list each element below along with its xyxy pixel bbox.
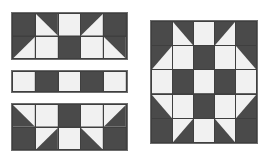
patch-light — [81, 37, 103, 59]
patch-dark — [152, 22, 172, 45]
patch-light — [215, 46, 235, 69]
patch-light — [59, 72, 81, 91]
patch-light — [194, 70, 214, 93]
patch-light — [36, 37, 58, 59]
patch-light — [36, 105, 58, 127]
patch-light — [59, 14, 81, 36]
quilt-strip-top — [11, 12, 128, 60]
patch-dark — [36, 72, 58, 91]
patch-dark — [104, 14, 126, 36]
quilt-diagram-canvas — [0, 0, 263, 164]
patch-triangle-top-right — [236, 46, 256, 69]
patch-dark — [59, 105, 81, 127]
patch-triangle-top-left — [13, 37, 35, 59]
patch-light — [236, 70, 256, 93]
patch-light — [173, 46, 193, 69]
patch-triangle-bottom-right — [173, 119, 193, 142]
patch-triangle-bottom-left — [13, 105, 35, 127]
patch-dark — [13, 14, 35, 36]
patch-dark — [215, 70, 235, 93]
quilt-assembled-block — [150, 20, 258, 144]
patch-triangle-top-right — [36, 14, 58, 36]
patch-dark — [81, 72, 103, 91]
patch-triangle-top-left — [81, 14, 103, 36]
patch-dark — [152, 119, 172, 142]
patch-triangle-top-left — [215, 22, 235, 45]
patch-dark — [59, 37, 81, 59]
patch-triangle-top-right — [104, 37, 126, 59]
patch-triangle-bottom-right — [104, 105, 126, 127]
patch-light — [13, 72, 35, 91]
quilt-strip-middle — [11, 70, 128, 93]
patch-triangle-bottom-left — [152, 95, 172, 118]
patch-dark — [194, 46, 214, 69]
patch-dark — [104, 128, 126, 150]
patch-triangle-bottom-left — [215, 119, 235, 142]
patch-light — [104, 72, 126, 91]
patch-triangle-top-left — [152, 46, 172, 69]
patch-dark — [13, 128, 35, 150]
patch-light — [173, 95, 193, 118]
patch-light — [81, 105, 103, 127]
patch-triangle-bottom-right — [236, 95, 256, 118]
patch-triangle-bottom-left — [81, 128, 103, 150]
patch-light — [194, 22, 214, 45]
patch-triangle-bottom-right — [36, 128, 58, 150]
patch-dark — [236, 22, 256, 45]
patch-dark — [173, 70, 193, 93]
patch-light — [152, 70, 172, 93]
patch-dark — [194, 95, 214, 118]
patch-triangle-top-right — [173, 22, 193, 45]
quilt-strip-bottom — [11, 103, 128, 151]
patch-light — [194, 119, 214, 142]
patch-light — [215, 95, 235, 118]
patch-dark — [236, 119, 256, 142]
patch-light — [59, 128, 81, 150]
